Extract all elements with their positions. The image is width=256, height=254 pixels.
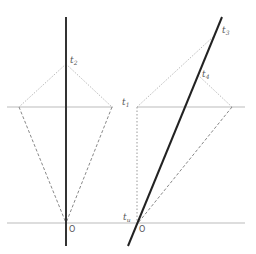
- left-dashed-line-2: [66, 107, 112, 223]
- right-dotted-line-t4: [199, 76, 232, 107]
- left-dashed-line-1: [19, 107, 66, 223]
- left-dotted-line-1: [19, 64, 66, 107]
- spacetime-diagram: t2 t1 t3 t4 tu O O: [0, 0, 256, 254]
- label-origin-right: O: [139, 225, 145, 234]
- label-t4: t4: [202, 69, 210, 80]
- label-t2: t2: [70, 55, 78, 66]
- label-origin-left: O: [69, 225, 75, 234]
- label-t3: t3: [222, 25, 230, 36]
- label-t1: t1: [122, 97, 129, 108]
- right-dashed-line: [138, 107, 232, 223]
- moving-worldline: [128, 17, 222, 246]
- left-dotted-line-2: [66, 64, 112, 107]
- label-tu: tu: [123, 212, 131, 223]
